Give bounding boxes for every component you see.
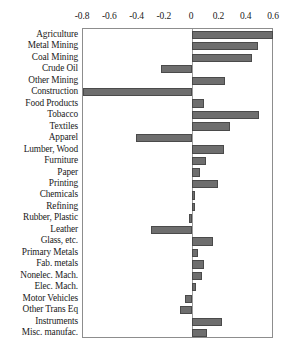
category-label: Construction xyxy=(31,86,78,97)
bar xyxy=(192,54,252,62)
category-label: Printing xyxy=(49,178,78,189)
category-label: Instruments xyxy=(35,315,78,326)
bar xyxy=(192,111,259,119)
category-label: Motor Vehicles xyxy=(23,292,79,303)
category-label: Crude Oil xyxy=(42,63,78,74)
category-label: Misc. manufac. xyxy=(22,327,78,338)
bar xyxy=(192,283,196,291)
bar xyxy=(136,134,192,142)
category-label: Primary Metals xyxy=(22,246,78,257)
category-label: Metal Mining xyxy=(28,40,78,51)
bar xyxy=(192,99,204,107)
category-label: Chemicals xyxy=(40,189,78,200)
category-label: Fab. metals xyxy=(36,258,78,269)
category-axis-labels: AgricultureMetal MiningCoal MiningCrude … xyxy=(0,28,80,338)
category-label: Food Products xyxy=(25,97,78,108)
bar xyxy=(192,31,272,39)
bar xyxy=(192,122,230,130)
x-axis-tick-labels: -0.8-0.6-0.4-0.200.20.40.6 xyxy=(0,11,291,25)
x-tick-label: 0.6 xyxy=(267,11,279,22)
bar xyxy=(192,168,200,176)
bar xyxy=(180,306,192,314)
bar xyxy=(192,329,207,337)
category-label: Leather xyxy=(50,223,78,234)
category-label: Elec. Mach. xyxy=(34,281,78,292)
bar xyxy=(192,260,204,268)
x-tick-label: -0.2 xyxy=(157,11,172,22)
x-tick-label: 0.2 xyxy=(213,11,225,22)
x-tick-label: -0.8 xyxy=(75,11,90,22)
category-label: Textiles xyxy=(50,120,79,131)
bar xyxy=(192,203,195,211)
bars-container xyxy=(83,29,272,337)
x-tick-label: 0 xyxy=(189,11,194,22)
bar xyxy=(192,272,202,280)
category-label: Tobacco xyxy=(47,109,78,120)
bar xyxy=(161,65,192,73)
bar xyxy=(83,88,192,96)
bar xyxy=(192,145,223,153)
bar-chart: -0.8-0.6-0.4-0.200.20.40.6 AgricultureMe… xyxy=(0,0,291,351)
category-label: Rubber, Plastic xyxy=(23,212,78,223)
bar xyxy=(151,226,192,234)
category-label: Lumber, Wood xyxy=(24,143,78,154)
x-tick-label: 0.4 xyxy=(240,11,252,22)
category-label: Furniture xyxy=(44,155,78,166)
bar xyxy=(185,295,192,303)
category-label: Coal Mining xyxy=(32,51,78,62)
category-label: Paper xyxy=(57,166,78,177)
category-label: Glass, etc. xyxy=(41,235,78,246)
category-label: Refining xyxy=(46,200,78,211)
category-label: Other Mining xyxy=(28,74,78,85)
bar xyxy=(192,249,197,257)
x-tick-label: -0.6 xyxy=(102,11,117,22)
x-tick-label: -0.4 xyxy=(129,11,144,22)
category-label: Other Trans Eq xyxy=(23,304,78,315)
category-label: Agriculture xyxy=(36,28,78,39)
bar xyxy=(192,77,225,85)
bar xyxy=(192,191,195,199)
category-label: Apparel xyxy=(49,132,78,143)
category-label: Nonelec. Mach. xyxy=(20,269,78,280)
plot-area xyxy=(82,28,273,338)
bar xyxy=(192,157,206,165)
bar xyxy=(189,214,192,222)
bar xyxy=(192,318,222,326)
bar xyxy=(192,180,218,188)
bar xyxy=(192,237,212,245)
bar xyxy=(192,42,257,50)
